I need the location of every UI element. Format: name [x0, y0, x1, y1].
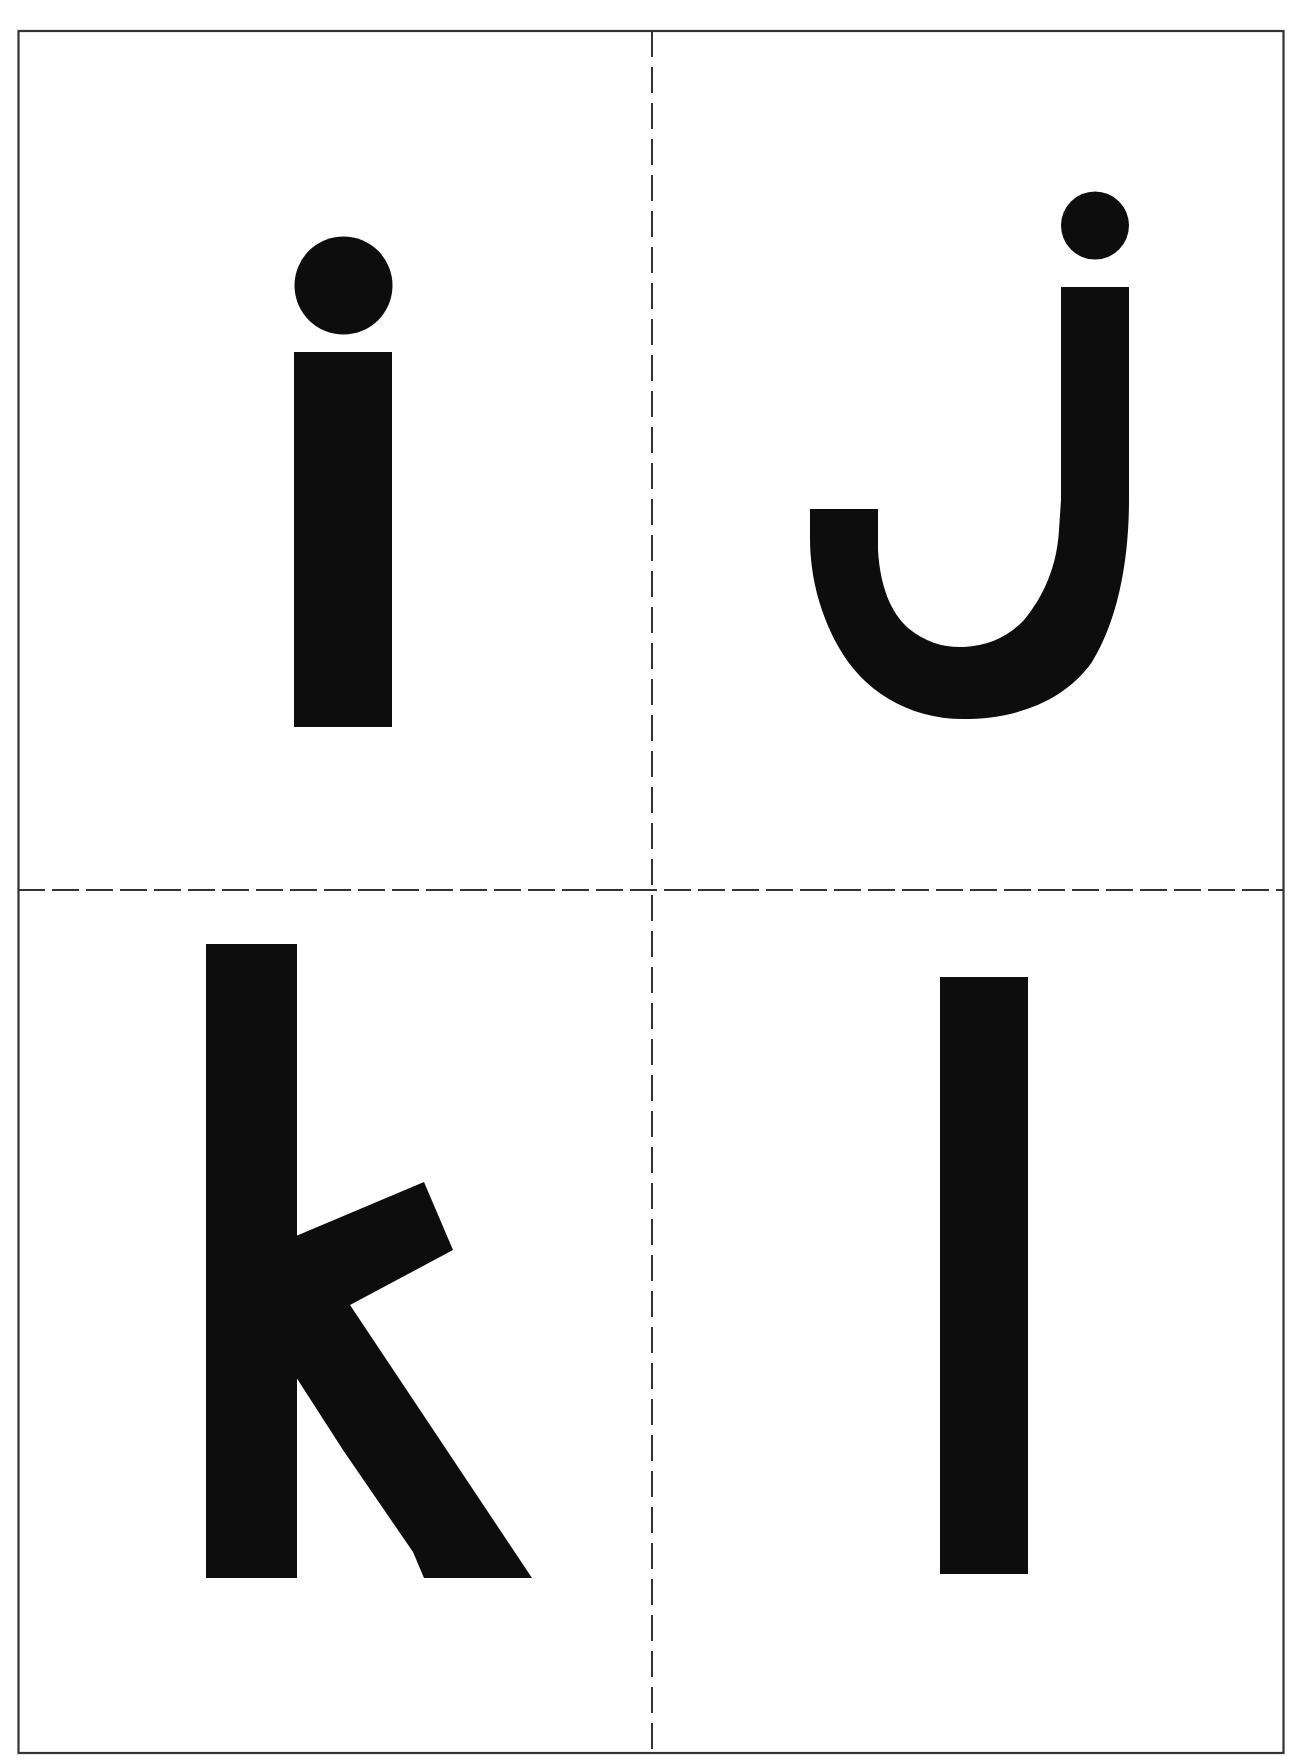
card-letter-k: [206, 944, 532, 1578]
letter-k-stem: [206, 944, 297, 1578]
card-letter-j: [810, 192, 1129, 720]
flashcard-sheet-drawing: [0, 0, 1305, 1763]
letter-k-leg: [296, 1300, 532, 1578]
letter-j-body: [810, 287, 1129, 719]
letter-i-stem: [294, 352, 392, 727]
card-letter-l: [940, 977, 1028, 1574]
letter-j-dot: [1061, 192, 1129, 260]
letter-l-stem: [940, 977, 1028, 1574]
card-letter-i: [294, 237, 393, 728]
flashcard-sheet: Lowercase letter flashcards i j k l i j …: [0, 0, 1305, 1763]
letter-i-dot: [295, 237, 393, 335]
